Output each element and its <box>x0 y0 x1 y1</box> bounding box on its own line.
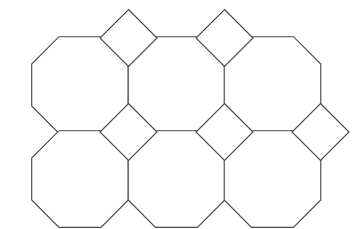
tiling-canvas <box>0 0 358 229</box>
tiling-figure <box>0 0 358 229</box>
octagon-layer <box>32 37 321 228</box>
